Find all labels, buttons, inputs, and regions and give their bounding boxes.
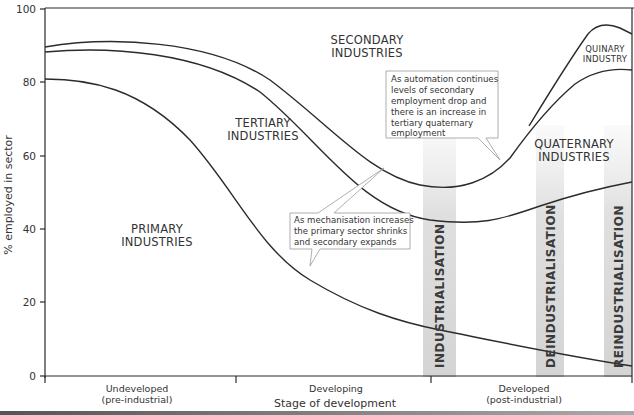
y-tick-60: 60 bbox=[23, 150, 36, 162]
y-tick-0: 0 bbox=[29, 370, 36, 382]
automation-line-3: employment drop and bbox=[391, 96, 486, 106]
x-cat-developed-2: (post-industrial) bbox=[486, 394, 562, 405]
callout-mechanisation: As mechanisation increases the primary s… bbox=[290, 168, 414, 266]
label-secondary-1: SECONDARY bbox=[331, 33, 405, 47]
label-reindustrialisation: REINDUSTRIALISATION bbox=[612, 205, 626, 368]
y-axis-title: % employed in sector bbox=[2, 135, 15, 255]
automation-line-1: As automation continues bbox=[391, 74, 499, 84]
automation-line-6: employment bbox=[391, 128, 446, 138]
y-tick-80: 80 bbox=[23, 76, 36, 88]
chart: 100 80 60 40 20 0 % employed in sector U… bbox=[0, 0, 634, 415]
x-axis-title: Stage of development bbox=[274, 397, 397, 410]
automation-line-2: levels of secondary bbox=[391, 85, 474, 95]
bottom-border bbox=[0, 411, 634, 415]
x-cat-undeveloped-2: (pre-industrial) bbox=[102, 394, 173, 405]
band-labels: INDUSTRIALISATION DEINDUSTRIALISATION RE… bbox=[433, 204, 626, 368]
x-cat-undeveloped-1: Undeveloped bbox=[106, 383, 169, 394]
automation-line-5: tertiary quaternary bbox=[391, 118, 473, 128]
x-cat-developed-1: Developed bbox=[499, 383, 550, 394]
y-tick-100: 100 bbox=[16, 3, 36, 15]
quaternary-boundary-curve bbox=[529, 25, 632, 126]
y-tick-40: 40 bbox=[23, 223, 36, 235]
label-deindustrialisation: DEINDUSTRIALISATION bbox=[544, 204, 558, 368]
label-quinary-2: INDUSTRY bbox=[583, 54, 628, 64]
mechanisation-line-3: and secondary expands bbox=[294, 237, 397, 247]
label-tertiary-2: INDUSTRIES bbox=[227, 129, 299, 143]
label-secondary-2: INDUSTRIES bbox=[331, 46, 403, 60]
label-quinary-1: QUINARY bbox=[585, 44, 625, 54]
label-tertiary-1: TERTIARY bbox=[234, 116, 291, 130]
label-primary-2: INDUSTRIES bbox=[121, 235, 193, 249]
y-tick-20: 20 bbox=[23, 296, 36, 308]
label-industrialisation: INDUSTRIALISATION bbox=[433, 223, 447, 368]
label-primary-1: PRIMARY bbox=[131, 222, 184, 236]
x-cat-developing: Developing bbox=[309, 383, 363, 394]
label-quaternary-2: INDUSTRIES bbox=[538, 150, 610, 164]
mechanisation-line-2: the primary sector shrinks bbox=[294, 226, 408, 236]
label-quaternary-1: QUATERNARY bbox=[534, 137, 614, 151]
mechanisation-line-1: As mechanisation increases bbox=[294, 215, 414, 225]
automation-line-4: there is an increase in bbox=[391, 107, 486, 117]
y-tick-labels: 100 80 60 40 20 0 bbox=[16, 3, 36, 382]
